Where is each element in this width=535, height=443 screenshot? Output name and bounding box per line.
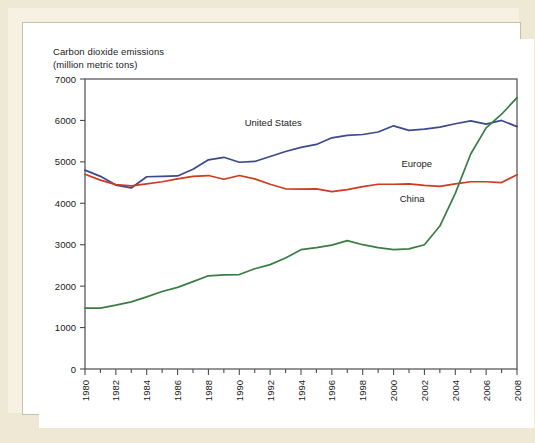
chart-figure: Carbon dioxide emissions(million metric … (39, 39, 534, 428)
x-tick-label: 1992 (265, 380, 276, 401)
y-tick-label: 0 (71, 364, 76, 375)
x-tick-label: 2006 (481, 380, 492, 401)
y-tick-label: 5000 (55, 156, 76, 167)
x-tick-label: 1984 (141, 380, 152, 401)
line-chart: 0100020003000400050006000700019801982198… (39, 39, 534, 428)
y-tick-label: 4000 (55, 198, 76, 209)
x-tick-label: 2008 (512, 380, 523, 401)
series-label-europe: Europe (401, 158, 432, 169)
x-tick-label: 2004 (450, 380, 461, 401)
x-tick-label: 1986 (172, 380, 183, 401)
y-tick-label: 2000 (55, 281, 76, 292)
y-tick-label: 3000 (55, 239, 76, 250)
y-tick-label: 1000 (55, 322, 76, 333)
series-label-united-states: United States (245, 117, 302, 128)
frame-rule: Carbon dioxide emissions(million metric … (22, 22, 521, 415)
outer-frame: Carbon dioxide emissions(million metric … (8, 8, 519, 413)
figure-page: Carbon dioxide emissions(million metric … (0, 0, 535, 443)
x-tick-label: 2002 (419, 380, 430, 401)
series-label-china: China (400, 193, 426, 204)
x-tick-label: 1988 (203, 380, 214, 401)
x-tick-label: 1982 (110, 380, 121, 401)
y-tick-label: 7000 (55, 74, 76, 85)
x-tick-label: 1994 (296, 380, 307, 401)
y-tick-label: 6000 (55, 115, 76, 126)
x-tick-label: 1998 (357, 380, 368, 401)
x-tick-label: 2000 (388, 380, 399, 401)
x-tick-label: 1980 (80, 380, 91, 401)
x-tick-label: 1996 (326, 380, 337, 401)
x-tick-label: 1990 (234, 380, 245, 401)
